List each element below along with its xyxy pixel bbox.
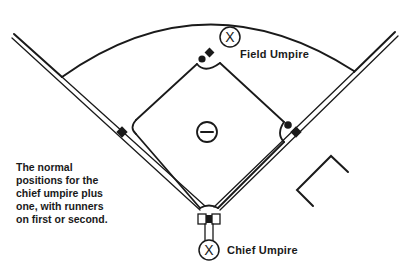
- second-base-icon: [205, 48, 215, 58]
- fielder-dot-first: [284, 121, 292, 129]
- pitcher-mound-icon: [197, 122, 217, 142]
- svg-text:X: X: [225, 29, 235, 45]
- catcher-marker-icon: [206, 215, 212, 223]
- caption-line: one, with runners: [16, 200, 131, 213]
- infield-diamond: [133, 63, 285, 208]
- fielder-dot-second: [198, 55, 205, 62]
- field-umpire-icon: X: [220, 27, 240, 47]
- caption-line: chief umpire plus: [16, 187, 131, 200]
- baseball-field-diagram: X X: [0, 0, 409, 274]
- first-base-icon: [290, 126, 301, 137]
- chief-umpire-icon: X: [199, 240, 219, 260]
- caption-line: positions for the: [16, 174, 131, 187]
- field-umpire-label: Field Umpire: [240, 48, 309, 60]
- chief-umpire-label: Chief Umpire: [227, 244, 298, 256]
- caption-line: The normal: [16, 161, 131, 174]
- diagram-caption: The normal positions for the chief umpir…: [16, 161, 131, 226]
- caption-line: on first or second.: [16, 213, 131, 226]
- dugout-bracket-icon: [297, 156, 348, 206]
- svg-text:X: X: [204, 242, 214, 258]
